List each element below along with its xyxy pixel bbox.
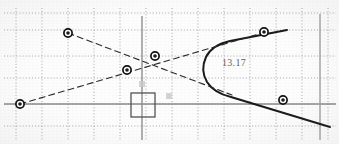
- graph-canvas-screenshot: 13.17: [0, 0, 339, 144]
- selection-rectangle[interactable]: [131, 93, 155, 117]
- ghost-point-marker: [139, 81, 145, 87]
- grid-lines: [4, 8, 336, 140]
- ghost-point-marker: [166, 93, 172, 99]
- selection-rectangle[interactable]: [131, 93, 155, 117]
- point-marker[interactable]: [151, 52, 159, 60]
- plot-area[interactable]: [0, 0, 339, 144]
- plotted-series[interactable]: [20, 30, 330, 127]
- point-marker[interactable]: [279, 96, 287, 104]
- point-markers[interactable]: [16, 28, 287, 108]
- point-marker[interactable]: [260, 28, 268, 36]
- point-marker[interactable]: [64, 29, 72, 37]
- point-marker[interactable]: [16, 100, 24, 108]
- point-marker[interactable]: [123, 66, 131, 74]
- axis-lines: [4, 14, 336, 140]
- dashed-line-descending[interactable]: [68, 33, 232, 95]
